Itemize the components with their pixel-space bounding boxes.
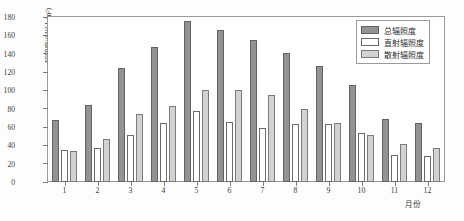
- bar-total-month-12: [415, 123, 423, 182]
- x-tick-label: 7: [248, 186, 278, 195]
- x-tick-mark: [263, 182, 264, 186]
- bar-direct-month-3: [127, 135, 135, 182]
- x-tick-mark: [362, 182, 363, 186]
- legend-swatch-direct-icon: [361, 38, 379, 46]
- bar-direct-month-1: [61, 150, 69, 182]
- legend-label-direct: 直射辐照度: [384, 37, 424, 48]
- x-tick-label: 10: [347, 186, 377, 195]
- x-tick-mark: [395, 182, 396, 186]
- bar-diffuse-month-10: [367, 135, 375, 182]
- legend-swatch-diffuse-icon: [361, 50, 379, 58]
- y-tick-label: 80: [0, 104, 15, 113]
- bar-total-month-5: [184, 21, 192, 182]
- x-tick-mark: [230, 182, 231, 186]
- y-tick-label: 100: [0, 86, 15, 95]
- x-tick-label: 6: [215, 186, 245, 195]
- x-tick-label: 3: [116, 186, 146, 195]
- bar-diffuse-month-5: [202, 90, 210, 182]
- x-tick-mark: [164, 182, 165, 186]
- chart-legend: 总辐照度 直射辐照度 散射辐照度: [356, 20, 430, 64]
- x-tick-label: 4: [149, 186, 179, 195]
- legend-item-direct[interactable]: 直射辐照度: [361, 36, 424, 48]
- y-tick-label: 20: [0, 159, 15, 168]
- x-tick-mark: [428, 182, 429, 186]
- x-tick-mark: [329, 182, 330, 186]
- x-tick-label: 8: [281, 186, 311, 195]
- bar-total-month-11: [382, 119, 390, 182]
- bar-diffuse-month-4: [169, 106, 177, 182]
- irradiance-bar-chart: 辐照度/(kW·h/m²) 020406080100120140160180 1…: [0, 0, 464, 221]
- bar-total-month-4: [151, 47, 159, 182]
- x-tick-label: 2: [83, 186, 113, 195]
- bar-total-month-8: [283, 53, 291, 182]
- y-tick-label: 140: [0, 49, 15, 58]
- bar-direct-month-4: [160, 123, 168, 182]
- bar-direct-month-8: [292, 124, 300, 182]
- x-tick-label: 12: [413, 186, 443, 195]
- bar-diffuse-month-6: [235, 90, 243, 182]
- legend-item-total[interactable]: 总辐照度: [361, 24, 424, 36]
- bar-direct-month-12: [424, 156, 432, 182]
- bar-direct-month-9: [325, 124, 333, 182]
- x-axis-title: 月份: [405, 198, 421, 209]
- y-tick-label: 120: [0, 68, 15, 77]
- bar-direct-month-10: [358, 133, 366, 183]
- x-tick-mark: [131, 182, 132, 186]
- x-tick-label: 11: [380, 186, 410, 195]
- bar-total-month-3: [118, 68, 126, 182]
- y-tick-label: 40: [0, 141, 15, 150]
- x-tick-mark: [197, 182, 198, 186]
- x-tick-mark: [65, 182, 66, 186]
- bar-direct-month-11: [391, 155, 399, 183]
- x-tick-mark: [98, 182, 99, 186]
- legend-label-total: 总辐照度: [384, 25, 416, 36]
- bar-total-month-7: [250, 40, 258, 182]
- x-tick-label: 5: [182, 186, 212, 195]
- bar-diffuse-month-12: [433, 148, 441, 182]
- bar-total-month-1: [52, 120, 60, 182]
- y-tick-label: 0: [0, 178, 15, 187]
- y-tick-label: 180: [0, 13, 15, 22]
- x-tick-mark: [296, 182, 297, 186]
- bar-direct-month-5: [193, 111, 201, 182]
- bar-diffuse-month-3: [136, 114, 144, 182]
- bar-total-month-10: [349, 85, 357, 182]
- bar-diffuse-month-1: [70, 151, 78, 182]
- x-tick-label: 9: [314, 186, 344, 195]
- legend-swatch-total-icon: [361, 26, 379, 34]
- bar-total-month-9: [316, 66, 324, 182]
- bar-total-month-2: [85, 105, 93, 182]
- bar-direct-month-6: [226, 122, 234, 182]
- y-tick-label: 60: [0, 123, 15, 132]
- x-tick-label: 1: [50, 186, 80, 195]
- bar-diffuse-month-8: [301, 109, 309, 182]
- bar-diffuse-month-2: [103, 139, 111, 182]
- bar-total-month-6: [217, 30, 225, 182]
- y-tick-label: 160: [0, 31, 15, 40]
- legend-item-diffuse[interactable]: 散射辐照度: [361, 48, 424, 60]
- bar-diffuse-month-7: [268, 95, 276, 182]
- bar-direct-month-2: [94, 148, 102, 182]
- bar-diffuse-month-11: [400, 144, 408, 182]
- bar-direct-month-7: [259, 128, 267, 182]
- bar-diffuse-month-9: [334, 123, 342, 182]
- legend-label-diffuse: 散射辐照度: [384, 49, 424, 60]
